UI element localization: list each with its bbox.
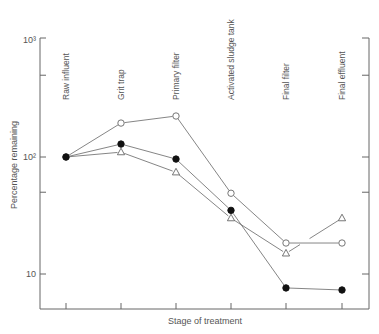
open-circle-marker bbox=[173, 113, 179, 119]
category-label: Grit trap bbox=[116, 69, 126, 100]
category-label: Raw influent bbox=[61, 53, 71, 100]
filled-circle-marker bbox=[173, 156, 179, 162]
series-filled-circle bbox=[63, 141, 345, 293]
open-triangle-marker bbox=[282, 249, 289, 256]
filled-circle-marker bbox=[228, 207, 234, 213]
y-axis-label: Percentage remaining bbox=[9, 121, 19, 209]
axes-frame bbox=[40, 38, 369, 309]
filled-circle-marker bbox=[339, 287, 345, 293]
open-circle-marker bbox=[339, 240, 345, 246]
y-tick-label: 10 bbox=[26, 269, 36, 279]
category-label: Final filter bbox=[281, 63, 291, 100]
open-triangle-marker bbox=[117, 148, 124, 155]
open-circle-marker bbox=[283, 240, 289, 246]
y-tick-label: 10³ bbox=[23, 35, 36, 45]
category-label: Activated sludge tank bbox=[226, 18, 236, 100]
filled-circle-marker bbox=[63, 154, 69, 160]
chart: 10³10²10 Raw influentGrit trapPrimary fi… bbox=[0, 0, 379, 334]
x-axis-label: Stage of treatment bbox=[168, 316, 243, 326]
series-group bbox=[63, 113, 346, 293]
series-open-circle bbox=[63, 113, 345, 246]
category-label: Final effluent bbox=[337, 51, 347, 100]
open-triangle-marker bbox=[172, 168, 179, 175]
x-ticks: Raw influentGrit trapPrimary filterActiv… bbox=[61, 18, 347, 309]
y-ticks: 10³10²10 bbox=[23, 35, 369, 279]
open-circle-marker bbox=[118, 120, 124, 126]
open-triangle-marker bbox=[227, 214, 234, 221]
open-triangle-marker bbox=[338, 214, 345, 221]
filled-circle-marker bbox=[283, 285, 289, 291]
series-open-triangle bbox=[69, 148, 345, 256]
category-label: Primary filter bbox=[171, 52, 181, 100]
y-tick-label: 10² bbox=[23, 152, 36, 162]
filled-circle-marker bbox=[118, 141, 124, 147]
open-circle-marker bbox=[228, 190, 234, 196]
